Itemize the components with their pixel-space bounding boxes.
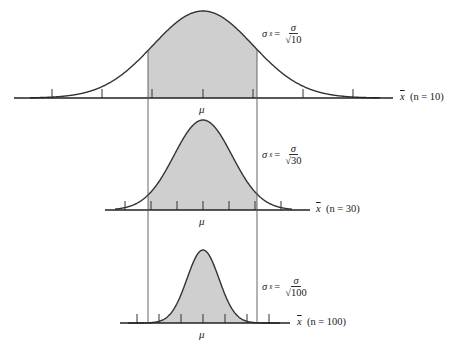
mu-label-n10: μ bbox=[199, 103, 205, 115]
fraction-denominator: √100 bbox=[284, 287, 308, 298]
sigma-symbol: σ bbox=[262, 281, 267, 292]
sigma-formula-n30: σx̄ = σ√30 bbox=[262, 143, 302, 166]
sigma-subscript: x̄ bbox=[269, 283, 272, 291]
axis-label-n30: x (n = 30) bbox=[316, 203, 360, 214]
equals-sign: = bbox=[274, 28, 280, 39]
sampling-distribution-diagram bbox=[0, 0, 456, 353]
shaded-region-n10 bbox=[148, 11, 257, 98]
fraction-denominator: √30 bbox=[284, 155, 302, 166]
sigma-subscript: x̄ bbox=[269, 151, 272, 159]
fraction-numerator: σ bbox=[291, 275, 300, 287]
shaded-region-n30 bbox=[148, 120, 257, 210]
sigma-symbol: σ bbox=[262, 28, 267, 39]
fraction-denominator: √10 bbox=[284, 34, 302, 45]
sigma-formula-n10: σx̄ = σ√10 bbox=[262, 22, 302, 45]
fraction-numerator: σ bbox=[289, 22, 298, 34]
sigma-subscript: x̄ bbox=[269, 30, 272, 38]
sigma-formula-n100: σx̄ = σ√100 bbox=[262, 275, 308, 298]
n-label: (n = 30) bbox=[326, 203, 360, 214]
xbar-symbol: x bbox=[316, 203, 321, 214]
n-label: (n = 10) bbox=[410, 91, 444, 102]
n-label: (n = 100) bbox=[307, 316, 346, 327]
sigma-symbol: σ bbox=[262, 149, 267, 160]
xbar-symbol: x bbox=[400, 91, 405, 102]
fraction-numerator: σ bbox=[289, 143, 298, 155]
mu-label-n100: μ bbox=[199, 328, 205, 340]
axis-label-n10: x (n = 10) bbox=[400, 91, 444, 102]
axis-label-n100: x (n = 100) bbox=[297, 316, 346, 327]
mu-label-n30: μ bbox=[199, 215, 205, 227]
xbar-symbol: x bbox=[297, 316, 302, 327]
equals-sign: = bbox=[274, 149, 280, 160]
shaded-region-n100 bbox=[148, 250, 257, 323]
equals-sign: = bbox=[274, 281, 280, 292]
